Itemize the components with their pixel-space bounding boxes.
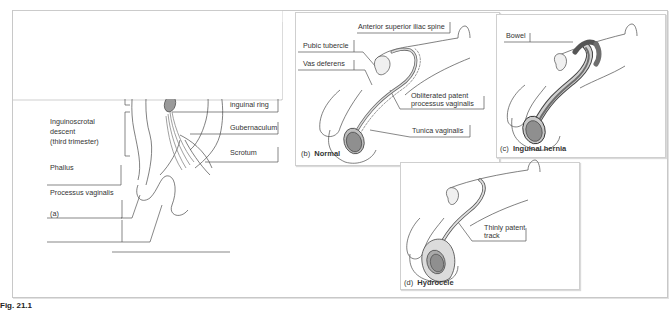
panel-a-visible bbox=[13, 11, 112, 99]
figure-caption: Fig. 21.1 bbox=[0, 301, 32, 310]
